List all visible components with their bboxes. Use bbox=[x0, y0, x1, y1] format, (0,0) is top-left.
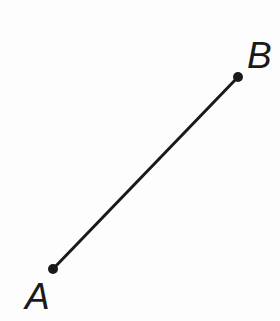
line-segment-ab bbox=[53, 77, 238, 269]
point-a-label: A bbox=[25, 278, 50, 315]
figure-canvas bbox=[0, 0, 280, 321]
point-a-dot bbox=[48, 264, 58, 274]
geometry-figure: A B bbox=[0, 0, 280, 321]
point-b-label: B bbox=[247, 37, 272, 74]
point-b-dot bbox=[233, 72, 243, 82]
